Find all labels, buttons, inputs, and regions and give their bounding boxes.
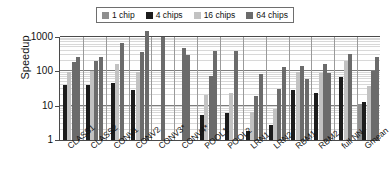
- bar-group: [174, 37, 197, 140]
- bar-group: [266, 37, 289, 140]
- bar[interactable]: [323, 64, 327, 140]
- bar-group: [357, 37, 380, 140]
- legend-swatch-icon: [246, 12, 253, 19]
- bar[interactable]: [76, 57, 80, 140]
- bar[interactable]: [99, 57, 103, 140]
- bar[interactable]: [90, 71, 94, 140]
- legend-entry[interactable]: 1 chip: [102, 11, 135, 20]
- bar[interactable]: [362, 102, 366, 140]
- bar[interactable]: [86, 85, 90, 140]
- bar[interactable]: [136, 72, 140, 140]
- chart-legend: 1 chip4 chips16 chips64 chips: [96, 7, 294, 23]
- bar[interactable]: [314, 93, 318, 140]
- bar[interactable]: [277, 89, 281, 140]
- bar-group: [60, 37, 83, 140]
- bar-group: [151, 37, 174, 140]
- bar[interactable]: [120, 43, 124, 140]
- bar[interactable]: [371, 71, 375, 140]
- bar[interactable]: [63, 85, 67, 140]
- bar[interactable]: [111, 83, 115, 140]
- bar-group: [83, 37, 106, 140]
- bar[interactable]: [254, 96, 258, 140]
- bar[interactable]: [344, 61, 348, 140]
- bar[interactable]: [300, 66, 304, 140]
- bar-group: [334, 37, 357, 140]
- y-axis: Speedup 1000100101: [0, 0, 59, 185]
- bar[interactable]: [305, 79, 309, 140]
- legend-swatch-icon: [146, 12, 153, 19]
- bar[interactable]: [204, 95, 208, 140]
- legend-swatch-icon: [194, 12, 201, 19]
- bar[interactable]: [145, 31, 149, 140]
- bar[interactable]: [327, 73, 331, 140]
- legend-entry[interactable]: 64 chips: [246, 11, 288, 20]
- bar-group: [129, 37, 152, 140]
- bar[interactable]: [161, 37, 165, 140]
- bar[interactable]: [72, 62, 76, 140]
- bar-group: [289, 37, 312, 140]
- bar[interactable]: [250, 112, 254, 140]
- bar[interactable]: [367, 86, 371, 140]
- y-axis-title: Speedup: [20, 13, 31, 103]
- bar[interactable]: [339, 77, 343, 140]
- bar[interactable]: [291, 90, 295, 140]
- bar[interactable]: [358, 104, 362, 140]
- bar-group: [243, 37, 266, 140]
- bar[interactable]: [94, 61, 98, 140]
- legend-swatch-icon: [102, 12, 109, 19]
- legend-label: 1 chip: [112, 11, 135, 20]
- legend-label: 64 chips: [256, 11, 288, 20]
- legend-label: 16 chips: [204, 11, 236, 20]
- bar[interactable]: [115, 64, 119, 140]
- legend-entry[interactable]: 16 chips: [194, 11, 236, 20]
- bar-group: [311, 37, 334, 140]
- bar[interactable]: [246, 131, 250, 140]
- bar[interactable]: [229, 93, 233, 140]
- bar[interactable]: [131, 90, 135, 140]
- legend-label: 4 chips: [156, 11, 183, 20]
- y-tick-label: 10: [13, 101, 53, 111]
- bar[interactable]: [67, 72, 71, 140]
- bar[interactable]: [186, 55, 190, 140]
- plot-area: [59, 37, 380, 141]
- bar[interactable]: [182, 48, 186, 140]
- legend-entry[interactable]: 4 chips: [146, 11, 183, 20]
- bar[interactable]: [282, 67, 286, 140]
- y-tick-label: 1000: [13, 32, 53, 42]
- bar[interactable]: [225, 113, 229, 140]
- y-tick-label: 1: [13, 135, 53, 145]
- bar[interactable]: [269, 125, 273, 140]
- bar[interactable]: [375, 57, 379, 140]
- bar[interactable]: [296, 72, 300, 140]
- bar[interactable]: [348, 54, 352, 140]
- bar[interactable]: [234, 51, 238, 140]
- bar-group: [220, 37, 243, 140]
- bar[interactable]: [319, 73, 323, 140]
- bar[interactable]: [259, 74, 263, 140]
- bar-group: [106, 37, 129, 140]
- bar[interactable]: [200, 115, 204, 140]
- bar[interactable]: [209, 76, 213, 140]
- bar[interactable]: [273, 109, 277, 140]
- bar-group: [197, 37, 220, 140]
- y-tick-label: 100: [13, 66, 53, 76]
- bar[interactable]: [213, 51, 217, 140]
- bar[interactable]: [140, 52, 144, 140]
